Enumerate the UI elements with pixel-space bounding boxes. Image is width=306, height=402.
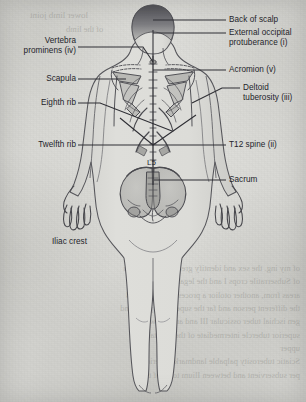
label-back-of-scalp: Back of scalp <box>229 15 278 25</box>
label-twelfth-rib: Twelfth rib <box>0 140 76 150</box>
label-vertebra-prominens: Vertebra prominens (iv) <box>0 36 76 57</box>
label-deltoid-tuberosity: Deltoid tuberosity (iii) <box>243 83 292 104</box>
label-l5: L5 <box>147 158 156 167</box>
anatomy-figure-page: lower limb joint of the limb of my ing. … <box>0 0 306 402</box>
label-external-occipital-protuberance: External occipital protuberance (i) <box>229 28 292 49</box>
label-iliac-crest: Iliac crest <box>52 237 87 247</box>
anatomy-illustration <box>0 0 306 402</box>
label-eighth-rib: Eighth rib <box>0 98 76 108</box>
label-sacrum: Sacrum <box>229 175 257 185</box>
label-scapula: Scapula <box>0 74 76 84</box>
label-acromion: Acromion (v) <box>229 65 276 75</box>
label-t12-spine: T12 spine (ii) <box>229 140 277 150</box>
